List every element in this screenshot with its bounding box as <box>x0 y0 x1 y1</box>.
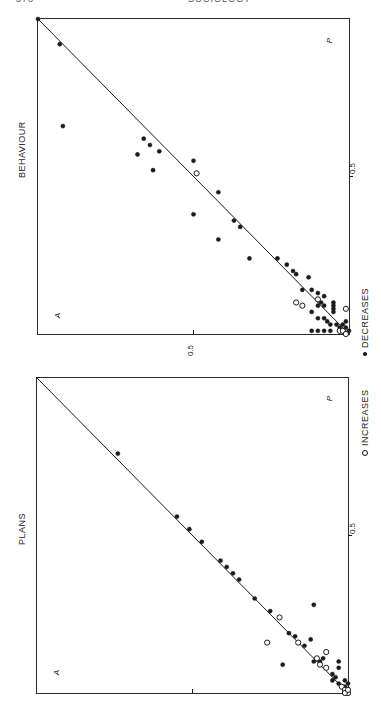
decrease-point <box>312 603 316 607</box>
decrease-point <box>306 275 310 279</box>
decrease-point <box>275 256 279 260</box>
page-header: 378 SOCIOLOGY <box>0 0 381 4</box>
increase-point <box>345 687 350 692</box>
legend-decreases: DECREASES <box>359 276 371 356</box>
decrease-point <box>157 149 161 153</box>
decrease-point <box>337 659 341 663</box>
decrease-point <box>216 190 220 194</box>
decrease-point <box>344 319 348 323</box>
open-circle-icon <box>362 450 368 456</box>
decrease-point <box>237 578 241 582</box>
increase-point <box>324 665 329 670</box>
decrease-point <box>322 329 326 333</box>
decrease-point <box>316 316 320 320</box>
decrease-point <box>285 263 289 267</box>
decrease-point <box>310 310 314 314</box>
decrease-point <box>142 137 146 141</box>
decrease-point <box>135 152 139 156</box>
decrease-point <box>322 304 326 308</box>
decrease-point <box>191 159 195 163</box>
decrease-point <box>322 316 326 320</box>
increase-point <box>314 656 319 661</box>
plans-title: PLANS <box>17 504 27 554</box>
decrease-point <box>58 42 62 46</box>
decrease-point <box>343 678 347 682</box>
legend-increases-label: INCREASES <box>360 389 370 446</box>
decrease-point <box>268 609 272 613</box>
behaviour-p-axis-letter: P <box>325 38 334 43</box>
increase-point <box>294 300 299 305</box>
plans-plot-canvas <box>37 378 348 693</box>
decrease-point <box>334 322 338 326</box>
decrease-point <box>325 319 329 323</box>
plans-plot: P A <box>36 377 349 694</box>
decrease-point <box>330 678 334 682</box>
legend-increases: INCREASES <box>359 376 371 456</box>
decrease-point <box>330 672 334 676</box>
decrease-point <box>328 329 332 333</box>
decrease-point <box>216 237 220 241</box>
behaviour-plot: P A <box>37 18 350 335</box>
decrease-point <box>218 559 222 563</box>
decrease-point <box>281 663 285 667</box>
increase-point <box>317 662 322 667</box>
filled-dot-icon <box>363 352 367 356</box>
decrease-point <box>309 637 313 641</box>
increase-point <box>324 649 329 654</box>
plans-p-tick-label: 0.5 <box>348 523 357 534</box>
increase-point <box>315 297 320 302</box>
increase-point <box>296 640 301 645</box>
legend-decreases-label: DECREASES <box>360 288 370 348</box>
behaviour-title: BEHAVIOUR <box>17 128 27 178</box>
decrease-point <box>287 631 291 635</box>
increase-point <box>343 306 348 311</box>
decrease-point <box>346 681 350 685</box>
decrease-point <box>231 571 235 575</box>
plans-p-axis-letter: P <box>325 396 334 401</box>
decrease-point <box>341 322 345 326</box>
decrease-point <box>175 515 179 519</box>
decrease-point <box>331 310 335 314</box>
decrease-point <box>225 565 229 569</box>
running-head: SOCIOLOGY <box>188 0 251 4</box>
decrease-point <box>322 294 326 298</box>
decrease-point <box>300 288 304 292</box>
plans-a-axis-letter: A <box>52 670 61 675</box>
behaviour-a-axis-letter: A <box>53 313 62 318</box>
increase-point <box>277 615 282 620</box>
increase-point <box>300 303 305 308</box>
decrease-point <box>316 304 320 308</box>
decrease-point <box>61 124 65 128</box>
decrease-point <box>310 329 314 333</box>
decrease-point <box>302 644 306 648</box>
increase-point <box>265 640 270 645</box>
increase-point <box>343 331 348 336</box>
behaviour-a-tick-label: 0.5 <box>186 345 195 356</box>
decrease-point <box>294 272 298 276</box>
decrease-point <box>36 17 40 21</box>
increase-point <box>194 171 199 176</box>
decrease-point <box>200 540 204 544</box>
behaviour-plot-canvas <box>38 19 349 334</box>
decrease-point <box>310 288 314 292</box>
decrease-point <box>116 452 120 456</box>
decrease-point <box>253 596 257 600</box>
decrease-point <box>337 666 341 670</box>
decrease-point <box>316 291 320 295</box>
page-number: 378 <box>16 0 34 4</box>
decrease-point <box>291 269 295 273</box>
decrease-point <box>238 225 242 229</box>
decrease-point <box>191 212 195 216</box>
decrease-point <box>247 256 251 260</box>
decrease-point <box>232 219 236 223</box>
reference-line <box>38 19 349 334</box>
decrease-point <box>316 329 320 333</box>
decrease-point <box>333 675 337 679</box>
decrease-point <box>328 322 332 326</box>
behaviour-p-tick-label: 0.5 <box>348 163 357 174</box>
decrease-point <box>321 656 325 660</box>
decrease-point <box>187 527 191 531</box>
decrease-point <box>151 168 155 172</box>
decrease-point <box>148 143 152 147</box>
reference-line <box>37 378 348 693</box>
